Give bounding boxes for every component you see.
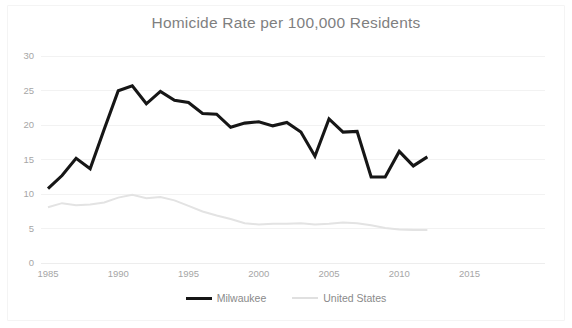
x-tick-2005: 2005: [318, 268, 339, 279]
x-tick-1995: 1995: [178, 268, 199, 279]
series-line-united-states: [48, 195, 427, 230]
x-tick-2000: 2000: [248, 268, 269, 279]
legend-item-united-states: United States: [292, 292, 386, 304]
chart-legend: Milwaukee United States: [0, 292, 572, 304]
x-tick-2010: 2010: [389, 268, 410, 279]
legend-swatch-milwaukee: [186, 297, 212, 300]
y-tick-20: 20: [23, 119, 34, 130]
y-tick-0: 0: [29, 257, 34, 268]
y-axis-tick-labels: 051015202530: [23, 50, 34, 268]
y-tick-10: 10: [23, 188, 34, 199]
gridlines: [41, 57, 545, 264]
x-tick-2015: 2015: [459, 268, 480, 279]
y-tick-25: 25: [23, 85, 34, 96]
series-line-milwaukee: [48, 86, 427, 189]
legend-item-milwaukee: Milwaukee: [186, 292, 267, 304]
y-tick-5: 5: [29, 223, 34, 234]
legend-swatch-united-states: [292, 297, 318, 299]
x-tick-1990: 1990: [108, 268, 129, 279]
chart-container: Homicide Rate per 100,000 Residents 0510…: [0, 0, 572, 328]
y-tick-30: 30: [23, 50, 34, 61]
x-tick-1985: 1985: [37, 268, 58, 279]
chart-plot-area: 051015202530 198519901995200020052010201…: [0, 0, 572, 328]
legend-label-united-states: United States: [323, 292, 386, 304]
legend-label-milwaukee: Milwaukee: [217, 292, 267, 304]
y-tick-15: 15: [23, 154, 34, 165]
data-series: [48, 86, 427, 230]
x-axis-tick-labels: 1985199019952000200520102015: [37, 268, 480, 279]
